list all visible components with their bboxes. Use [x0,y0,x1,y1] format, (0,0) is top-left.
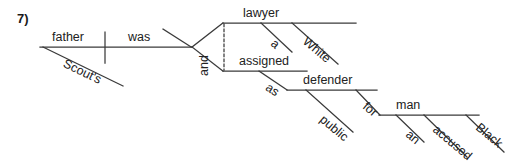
word-and: and [197,55,211,76]
word-defender: defender [303,73,352,87]
word-was: was [128,30,150,44]
predicate-complement-slash [163,29,191,47]
word-lawyer: lawyer [243,6,279,20]
word-assigned: assigned [239,54,289,68]
word-father: father [52,30,84,44]
word-man: man [396,98,420,112]
diagram-canvas: 7) [0,0,528,168]
fork-upper-arm [192,23,223,47]
